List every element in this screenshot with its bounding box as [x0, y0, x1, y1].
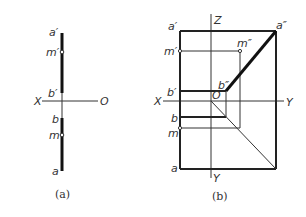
label-x-axis: X	[153, 95, 162, 108]
label-origin: O	[212, 89, 221, 102]
label-a-dprime: a″	[276, 19, 288, 32]
label-x-axis: X	[33, 95, 42, 108]
label-b: b	[171, 112, 178, 125]
label-m-prime: m′	[164, 45, 178, 58]
label-m: m	[168, 127, 179, 140]
label-m-dprime: m″	[237, 37, 253, 50]
point-m	[60, 133, 64, 137]
point-m-prime	[178, 49, 181, 52]
label-a-prime: a′	[168, 20, 178, 33]
label-b-prime: b′	[48, 87, 58, 100]
label-a: a	[52, 165, 59, 178]
label-b: b	[52, 113, 59, 126]
miter-line-45deg	[211, 101, 276, 169]
figure-a: a′ m′ b′ X O b m a (a)	[33, 26, 109, 201]
label-m: m	[49, 129, 60, 142]
label-z-axis: Z	[213, 14, 222, 27]
label-a-prime: a′	[49, 26, 59, 39]
label-m-prime: m′	[46, 46, 60, 59]
point-m	[178, 126, 181, 129]
caption-b: (b)	[212, 190, 228, 203]
label-b-prime: b′	[167, 86, 177, 99]
caption-a: (a)	[55, 188, 70, 201]
projection-diagram: a′ m′ b′ X O b m a (a) a′ m′	[0, 0, 306, 217]
figure-b: a′ m′ b′ Z a″ m″ b″ X O Y b m a Y (b)	[153, 14, 294, 203]
label-a: a	[171, 162, 178, 175]
label-y-axis-vertical: Y	[213, 172, 221, 185]
point-m-prime	[60, 50, 64, 54]
label-origin: O	[100, 95, 109, 108]
label-y-axis-horizontal: Y	[286, 96, 294, 109]
